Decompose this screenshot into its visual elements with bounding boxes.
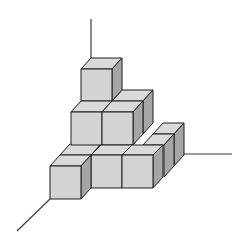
cube-bottom-col1 — [91, 155, 122, 188]
cube-diagram — [0, 0, 243, 245]
cube-bottom-col2 — [122, 145, 163, 188]
cube-bottom-front-left — [50, 155, 91, 199]
cube-top — [81, 58, 122, 101]
cube-stack-illustration — [0, 0, 243, 245]
cube-middle-right — [102, 101, 143, 145]
depth-axis — [17, 199, 50, 231]
